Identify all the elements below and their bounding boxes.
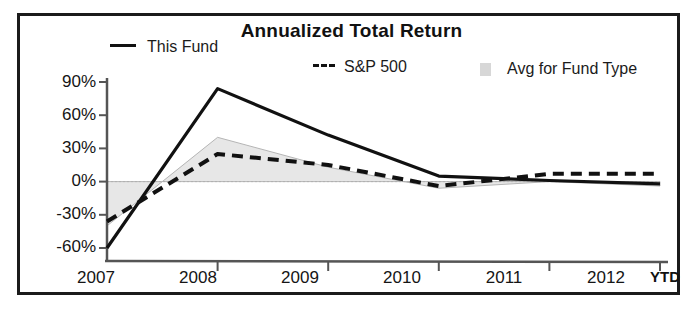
plot-area (20, 16, 683, 298)
chart-card: Annualized Total Return This Fund S&P 50… (17, 13, 680, 295)
